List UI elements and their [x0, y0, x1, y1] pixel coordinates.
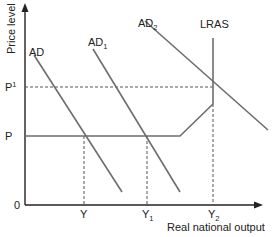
x-axis-arrow-icon	[254, 202, 263, 209]
price-label-p1: P1	[5, 80, 17, 93]
output-label-y: Y	[80, 208, 88, 220]
x-axis-label: Real national output	[167, 221, 265, 233]
ad1-label: AD1	[88, 36, 107, 51]
axes	[22, 3, 264, 209]
ad-label: AD	[29, 46, 44, 58]
ad2-label: AD2	[138, 17, 157, 32]
lras-label: LRAS	[200, 18, 229, 30]
aggregate-supply-curve	[25, 104, 213, 136]
price-label-p: P	[5, 130, 12, 142]
ad1-curve	[93, 49, 180, 192]
ad-as-diagram: Price level P1 P 0 Y Y1 Y2 Real national…	[0, 0, 276, 237]
ad2-curve	[145, 21, 268, 130]
output-label-y1: Y1	[142, 208, 154, 223]
y-axis-arrow-icon	[22, 3, 29, 12]
y-axis-label: Price level	[5, 3, 17, 54]
origin-label: 0	[14, 199, 20, 211]
